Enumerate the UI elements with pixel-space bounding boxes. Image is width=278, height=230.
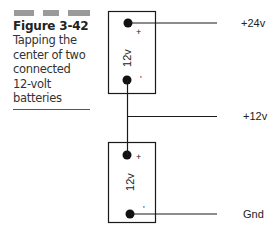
voltage-label: 12v: [124, 173, 136, 191]
positive-symbol: +: [136, 27, 141, 37]
positive-symbol: +: [136, 152, 141, 162]
voltage-label: 12v: [121, 49, 133, 67]
output-label-24v: +24v: [241, 17, 266, 29]
battery-top: + 12v ': [109, 12, 156, 94]
negative-symbol: ': [140, 74, 142, 84]
battery-bottom: + 12v ': [109, 143, 156, 223]
output-label-12v: +12v: [243, 110, 268, 122]
battery-circuit-diagram: + 12v ' + 12v ' +24v +12v Gnd: [0, 0, 278, 230]
negative-symbol: ': [143, 204, 145, 214]
output-label-gnd: Gnd: [243, 208, 264, 220]
